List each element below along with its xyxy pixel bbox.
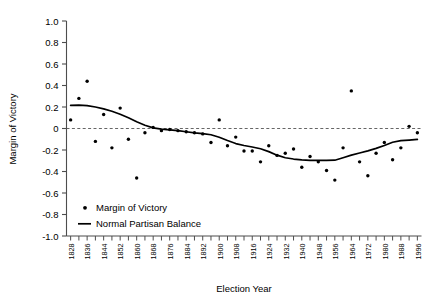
y-axis-title: Margin of Victory xyxy=(7,93,18,164)
legend-label: Margin of Victory xyxy=(96,202,167,213)
data-point xyxy=(267,144,270,147)
data-point xyxy=(77,97,80,100)
data-point xyxy=(407,125,410,128)
x-axis-tick-label: 1860 xyxy=(133,244,142,260)
x-axis-tick-label: 1980 xyxy=(381,244,390,260)
x-axis-tick-label: 1884 xyxy=(183,244,192,260)
data-point xyxy=(218,118,221,121)
data-point xyxy=(325,169,328,172)
x-axis-tick-label: 1956 xyxy=(331,244,340,260)
x-axis-tick-label: 1932 xyxy=(282,244,291,260)
data-point xyxy=(308,155,311,158)
data-point xyxy=(259,160,262,163)
x-axis-tick-label: 1948 xyxy=(315,244,324,260)
x-axis-tick-label: 1876 xyxy=(166,244,175,260)
x-axis-tick-label: 1940 xyxy=(298,244,307,260)
data-point xyxy=(118,106,121,109)
data-point xyxy=(350,89,353,92)
data-point xyxy=(127,138,130,141)
legend-label: Normal Partisan Balance xyxy=(96,218,201,229)
y-axis-tick-label: 0.8 xyxy=(45,37,58,48)
data-point xyxy=(226,144,229,147)
y-axis-tick-label: 0.6 xyxy=(45,59,58,70)
data-point xyxy=(341,146,344,149)
x-axis-tick-label: 1868 xyxy=(149,244,158,260)
x-axis-tick-label: 1844 xyxy=(100,244,109,260)
data-point xyxy=(69,118,72,121)
chart-figure: 1.00.80.60.40.20-0.2-0.4-0.6-0.8-1.0 182… xyxy=(0,0,441,299)
y-axis-tick-label: -0.8 xyxy=(42,209,58,220)
data-point xyxy=(242,149,245,152)
data-point xyxy=(399,146,402,149)
data-point xyxy=(383,141,386,144)
x-axis-tick-label: 1828 xyxy=(67,244,76,260)
y-axis-tick-label: 0.2 xyxy=(45,102,58,113)
x-axis-tick-label: 1852 xyxy=(116,244,125,260)
data-point xyxy=(366,174,369,177)
x-axis-tick-label: 1964 xyxy=(348,244,357,260)
x-axis-tick-label: 1996 xyxy=(414,244,423,260)
y-axis-tick-label: -0.4 xyxy=(42,166,58,177)
x-axis-title: Election Year xyxy=(216,283,271,294)
data-point xyxy=(358,160,361,163)
margin-of-victory-chart: 1.00.80.60.40.20-0.2-0.4-0.6-0.8-1.0 182… xyxy=(0,0,441,299)
data-point xyxy=(374,152,377,155)
data-point xyxy=(251,149,254,152)
data-point xyxy=(135,176,138,179)
y-axis-tick-label: 0.4 xyxy=(45,80,58,91)
data-point xyxy=(94,140,97,143)
y-axis-tick-label: -1.0 xyxy=(42,231,58,242)
x-axis-tick-label: 1924 xyxy=(265,244,274,260)
x-axis-tick-label: 1892 xyxy=(199,244,208,260)
y-axis-tick-label: -0.2 xyxy=(42,145,58,156)
data-point xyxy=(143,131,146,134)
x-axis-tick-label: 1988 xyxy=(397,244,406,260)
y-axis-tick-label: -0.6 xyxy=(42,188,58,199)
data-point xyxy=(391,158,394,161)
data-point xyxy=(300,166,303,169)
data-point xyxy=(209,141,212,144)
data-point xyxy=(333,178,336,181)
data-point xyxy=(85,80,88,83)
x-axis-tick-label: 1908 xyxy=(232,244,241,260)
data-point xyxy=(292,147,295,150)
x-axis-tick-label: 1916 xyxy=(249,244,258,260)
legend-dot-icon xyxy=(83,206,87,210)
data-point xyxy=(284,152,287,155)
x-axis-tick-label: 1972 xyxy=(364,244,373,260)
x-axis-tick-label: 1836 xyxy=(83,244,92,260)
y-axis-tick-label: 1.0 xyxy=(45,16,58,27)
data-point xyxy=(234,135,237,138)
data-point xyxy=(110,146,113,149)
data-point xyxy=(102,113,105,116)
x-axis-tick-label: 1900 xyxy=(216,244,225,260)
data-point xyxy=(416,131,419,134)
y-axis-tick-label: 0 xyxy=(53,123,58,134)
